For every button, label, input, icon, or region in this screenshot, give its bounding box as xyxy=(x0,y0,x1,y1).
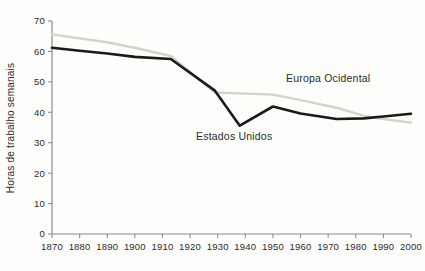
y-tick-label: 30 xyxy=(34,137,45,148)
y-tick-label: 40 xyxy=(34,107,45,118)
x-tick-label: 1950 xyxy=(262,241,284,252)
x-tick-label: 1990 xyxy=(372,241,394,252)
x-tick-label: 1960 xyxy=(290,241,312,252)
y-tick-label: 70 xyxy=(34,15,45,26)
y-tick-label: 10 xyxy=(34,198,45,209)
x-tick-label: 1890 xyxy=(96,241,118,252)
y-tick-label: 60 xyxy=(34,46,45,57)
y-tick-label: 20 xyxy=(34,168,45,179)
x-tick-label: 1900 xyxy=(124,241,146,252)
x-tick-label: 1940 xyxy=(234,241,256,252)
x-tick-label: 1910 xyxy=(151,241,173,252)
y-axis-title: Horas de trabalho semanais xyxy=(5,63,16,193)
y-tick-label: 0 xyxy=(40,228,45,239)
x-tick-label: 1980 xyxy=(345,241,367,252)
x-tick-label: 1880 xyxy=(69,241,91,252)
x-tick-label: 1870 xyxy=(41,241,63,252)
y-tick-label: 50 xyxy=(34,76,45,87)
x-tick-label: 2000 xyxy=(400,241,422,252)
y-tick-group: 010203040506070 xyxy=(34,15,52,239)
x-tick-label: 1930 xyxy=(207,241,229,252)
x-tick-label: 1970 xyxy=(317,241,339,252)
work-hours-line-chart: 010203040506070 Horas de trabalho semana… xyxy=(0,0,425,271)
series-label-europa-ocidental: Europa Ocidental xyxy=(286,72,370,84)
x-axis: 1870188018901900191019201930194019501960… xyxy=(41,234,422,252)
annotation-group: Europa Ocidental Estados Unidos xyxy=(196,72,370,142)
x-tick-group: 1870188018901900191019201930194019501960… xyxy=(41,234,422,252)
y-axis: 010203040506070 Horas de trabalho semana… xyxy=(5,15,52,239)
chart-canvas: 010203040506070 Horas de trabalho semana… xyxy=(0,0,425,271)
x-tick-label: 1920 xyxy=(179,241,201,252)
series-label-estados-unidos: Estados Unidos xyxy=(196,130,272,142)
